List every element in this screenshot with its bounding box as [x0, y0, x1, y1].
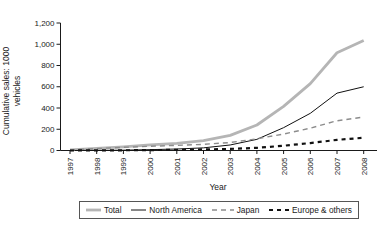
y-axis-title: Cumulative sales: 1000 vehicles [1, 30, 27, 152]
x-tick-label: 2002 [200, 157, 209, 175]
legend-item-north-america: North America [131, 205, 202, 215]
x-tick-label: 2008 [360, 157, 369, 175]
x-tick-label: 2007 [333, 157, 342, 175]
x-tick-label: 2006 [306, 157, 315, 175]
series-line-japan [70, 117, 364, 150]
plot-area: 02004006008001,0001,20019971998199920002… [0, 0, 388, 229]
series-line-total [70, 41, 364, 150]
y-tick-label: 200 [41, 125, 55, 134]
legend-item-total: Total [86, 205, 122, 215]
japan-line-sample-icon [212, 207, 234, 213]
x-tick-label: 1999 [119, 157, 128, 175]
y-tick-label: 1,000 [34, 40, 55, 49]
x-tick-label: 1997 [66, 157, 75, 175]
legend-label-total: Total [104, 205, 122, 215]
y-axis-title-line1: Cumulative sales: 1000 [1, 30, 12, 152]
legend-label-japan: Japan [237, 205, 260, 215]
europe-others-line-sample-icon [269, 207, 289, 213]
x-tick-label: 2003 [226, 157, 235, 175]
y-axis-title-line2: vehicles [12, 30, 23, 152]
x-tick-label: 2000 [146, 157, 155, 175]
y-tick-label: 600 [41, 82, 55, 91]
legend-item-japan: Japan [212, 205, 260, 215]
north-america-line-sample-icon [131, 207, 146, 213]
x-axis-title: Year [158, 182, 278, 192]
x-tick-label: 1998 [93, 157, 102, 175]
y-tick-label: 400 [41, 104, 55, 113]
x-tick-label: 2001 [173, 157, 182, 175]
y-tick-label: 800 [41, 61, 55, 70]
legend-label-europe-others: Europe & others [292, 205, 352, 215]
x-tick-label: 2005 [280, 157, 289, 175]
total-line-sample-icon [86, 207, 101, 213]
legend: Total North America Japan Europe & other… [79, 201, 359, 219]
y-tick-label: 1,200 [34, 19, 55, 28]
x-tick-label: 2004 [253, 157, 262, 175]
y-tick-label: 0 [50, 146, 55, 155]
hybrid-sales-chart: 02004006008001,0001,20019971998199920002… [0, 0, 388, 229]
legend-item-europe-others: Europe & others [269, 205, 352, 215]
legend-label-north-america: North America [149, 205, 202, 215]
